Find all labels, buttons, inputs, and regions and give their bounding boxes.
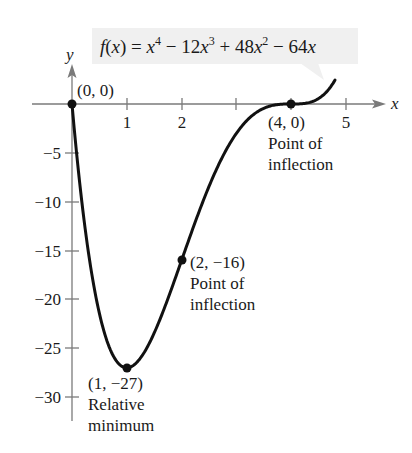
point-inflection-2 xyxy=(178,256,187,265)
svg-text:Relative: Relative xyxy=(88,395,145,414)
annotation-inflection-4: (4, 0) Point of inflection xyxy=(268,113,334,174)
y-tick-label: −25 xyxy=(34,339,61,358)
y-tick-label: −15 xyxy=(34,242,61,261)
svg-text:(1, −27): (1, −27) xyxy=(88,374,143,393)
point-origin xyxy=(68,100,77,109)
y-tick-label: −5 xyxy=(43,144,61,163)
svg-text:minimum: minimum xyxy=(88,416,154,435)
annotation-relative-minimum: (1, −27) Relative minimum xyxy=(88,374,154,435)
function-label: f(x) = x4 − 12x3 + 48x2 − 64x xyxy=(100,34,317,58)
svg-text:(2, −16): (2, −16) xyxy=(190,253,245,272)
point-inflection-4 xyxy=(287,100,296,109)
svg-text:inflection: inflection xyxy=(190,295,256,314)
y-tick-label: −30 xyxy=(34,388,61,407)
x-tick-label: 2 xyxy=(178,113,187,132)
y-axis-label: y xyxy=(64,45,74,64)
key-points xyxy=(68,100,296,373)
svg-text:Point of: Point of xyxy=(268,134,323,153)
annotation-inflection-2: (2, −16) Point of inflection xyxy=(190,253,256,314)
function-label-bubble: f(x) = x4 − 12x3 + 48x2 − 64x xyxy=(92,28,358,80)
axes xyxy=(32,72,378,421)
svg-text:(4, 0): (4, 0) xyxy=(268,113,305,132)
svg-text:inflection: inflection xyxy=(268,155,334,174)
y-tick-label: −20 xyxy=(34,290,61,309)
annotation-origin: (0, 0) xyxy=(77,81,114,100)
x-tick-label: 1 xyxy=(123,113,132,132)
y-tick-label: −10 xyxy=(34,193,61,212)
svg-text:Point of: Point of xyxy=(190,274,245,293)
x-tick-label: 5 xyxy=(342,113,351,132)
chart: f(x) = x4 − 12x3 + 48x2 − 64x x y 1 2 5 … xyxy=(0,0,412,453)
x-axis-label: x xyxy=(390,94,399,113)
point-relative-minimum xyxy=(123,364,132,373)
